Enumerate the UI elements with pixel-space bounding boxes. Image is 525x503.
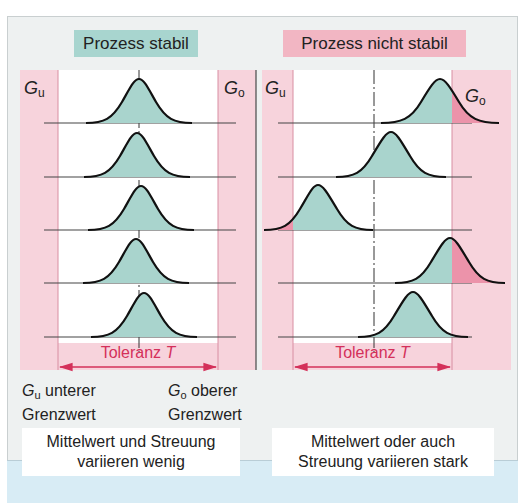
unstable-panel bbox=[262, 70, 511, 370]
legend-text: Grenzwert bbox=[22, 406, 96, 423]
caption-unstable: Mittelwert oder auchStreuung variieren s… bbox=[272, 428, 494, 476]
symbol: G bbox=[22, 382, 34, 399]
legend-upper-limit: Go obererGrenzwert bbox=[168, 381, 242, 424]
title-stable: Prozess stabil bbox=[74, 30, 198, 57]
symbol: G bbox=[465, 86, 479, 106]
tolerance-symbol: T bbox=[400, 344, 410, 361]
subscript: u bbox=[38, 86, 45, 100]
symbol: G bbox=[168, 382, 180, 399]
tolerance-label-left: Toleranz T bbox=[58, 344, 218, 362]
subscript: o bbox=[479, 94, 486, 108]
upper-limit-label-left: Go bbox=[224, 78, 245, 100]
symbol: G bbox=[265, 78, 279, 98]
tolerance-symbol: T bbox=[166, 344, 176, 361]
legend-lower-limit: Gu untererGrenzwert bbox=[22, 381, 96, 424]
symbol: G bbox=[24, 78, 38, 98]
tolerance-text: Toleranz bbox=[335, 344, 395, 361]
caption-line: Mittelwert oder auch bbox=[311, 433, 455, 450]
legend-text: unterer bbox=[41, 382, 96, 399]
lower-limit-label-right: Gu bbox=[265, 78, 286, 100]
caption-line: Mittelwert und Streuung bbox=[47, 433, 216, 450]
caption-stable: Mittelwert und Streuungvariieren wenig bbox=[22, 428, 240, 476]
symbol: G bbox=[224, 78, 238, 98]
title-unstable: Prozess nicht stabil bbox=[283, 30, 466, 57]
subscript: u bbox=[279, 86, 286, 100]
tolerance-text: Toleranz bbox=[101, 344, 161, 361]
stable-panel bbox=[20, 70, 256, 370]
legend-text: Grenzwert bbox=[168, 406, 242, 423]
subscript: o bbox=[238, 86, 245, 100]
upper-limit-label-right: Go bbox=[465, 86, 486, 108]
legend-text: oberer bbox=[187, 382, 238, 399]
tolerance-label-right: Toleranz T bbox=[293, 344, 452, 362]
caption-line: Streuung variieren stark bbox=[298, 453, 468, 470]
lower-limit-label-left: Gu bbox=[24, 78, 45, 100]
caption-line: variieren wenig bbox=[77, 453, 185, 470]
